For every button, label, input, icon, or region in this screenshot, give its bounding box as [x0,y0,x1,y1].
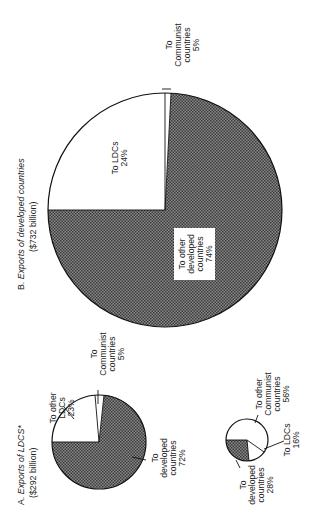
pie-c-developed-label: To developed countries 28% [238,465,275,505]
svg-text:16%: 16% [291,431,301,449]
pie-c-communist-label: To other Communist countries 56% [254,372,291,416]
svg-text:24%: 24% [119,149,129,167]
pie-c-developed-leader [236,460,240,468]
pie-a-subtitle: ($292 billion) [28,448,38,498]
svg-text:5%: 5% [191,38,201,51]
pie-a-developed-label: To developed countries 72% [150,438,187,478]
pie-a-communist-label: To Communist countries 5% [89,332,126,376]
svg-text:74%: 74% [204,245,214,263]
pie-c: To developed countries 28% To LDCs 16% T… [226,372,301,505]
pie-b-subtitle: ($732 billion) [28,202,38,252]
pie-a: A. Exports of LDCS* ($292 billion) To ot… [16,332,187,505]
svg-text:A. Exports of LDCS*: A. Exports of LDCS* [16,425,26,505]
pie-a-title: A. Exports of LDCS* [16,425,26,505]
svg-text:B. Exports of developed countr: B. Exports of developed countries [16,158,26,290]
pie-c-ldcs-label: To LDCs 16% [282,424,301,457]
svg-text:56%: 56% [281,385,291,403]
svg-text:($292 billion): ($292 billion) [28,448,38,498]
svg-text:23%: 23% [66,399,76,417]
pie-chart-figure: To other developed countries 74% To LDCs… [0,0,313,516]
pie-b-slice-ldcs [48,93,165,210]
svg-text:72%: 72% [177,449,187,467]
svg-text:($732 billion): ($732 billion) [28,202,38,252]
svg-text:5%: 5% [116,347,126,360]
svg-text:28%: 28% [265,476,275,494]
pie-b: To other developed countries 74% To LDCs… [16,23,282,327]
pie-b-communist-label: To Communist countries 5% [164,23,201,67]
pie-b-title: B. Exports of developed countries [16,158,26,290]
